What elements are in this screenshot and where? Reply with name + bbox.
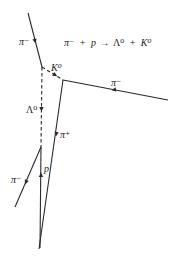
label-incoming-pi-minus: π⁻ (19, 36, 29, 47)
arrow-icon-incoming-pi-minus (32, 39, 37, 45)
arrow-icon-proton (39, 172, 43, 177)
eq-arrow: → (99, 37, 109, 48)
eq-k0: K⁰ (140, 37, 152, 48)
eq-plus-2: + (130, 37, 136, 48)
label-outgoing-pi-minus: π⁻ (111, 77, 121, 88)
arrow-icon-lambda0 (39, 107, 43, 112)
particle-track-diagram: π⁻ K⁰ π⁻ Λ⁰ π⁺ p π⁻ π⁻ + p → Λ⁰ + K⁰ (0, 0, 184, 262)
label-lower-pi-minus: π⁻ (11, 174, 21, 185)
label-proton: p (43, 163, 49, 174)
arrow-icon-k0 (52, 72, 58, 78)
track-pi-plus (39, 80, 63, 249)
label-k0: K⁰ (50, 62, 62, 73)
reaction-equation: π⁻ + p → Λ⁰ + K⁰ (64, 37, 152, 48)
eq-proton: p (90, 37, 96, 48)
label-pi-plus: π⁺ (60, 129, 70, 140)
eq-plus-1: + (80, 37, 86, 48)
label-lambda0: Λ⁰ (26, 104, 37, 115)
eq-pi-minus: π⁻ (64, 37, 74, 48)
eq-lambda0: Λ⁰ (113, 37, 124, 48)
arrow-icon-lower-pi-minus (23, 179, 29, 185)
